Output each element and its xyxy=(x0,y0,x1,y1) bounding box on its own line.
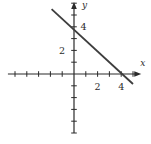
y-tick-label: 4 xyxy=(81,21,87,32)
coordinate-plane: 2424xy xyxy=(0,0,151,144)
x-tick-label: 4 xyxy=(118,81,124,92)
x-axis-label: x xyxy=(140,58,145,68)
x-axis-arrow-icon xyxy=(134,71,141,77)
y-axis-label: y xyxy=(81,0,88,10)
x-tick-label: 2 xyxy=(95,81,101,92)
y-tick-label: 2 xyxy=(59,45,65,56)
graph-figure: 2424xy xyxy=(0,0,151,144)
